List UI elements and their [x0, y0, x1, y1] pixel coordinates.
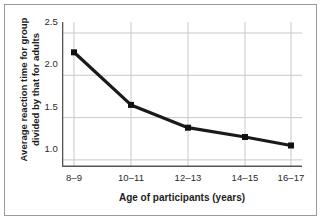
- x-tick-label: 10–11: [118, 172, 144, 183]
- y-tick-label: 2.0: [18, 58, 58, 69]
- x-tick-label: 12–13: [175, 172, 202, 183]
- data-point-marker: [128, 102, 134, 108]
- y-tick-label: 1.0: [18, 143, 58, 154]
- x-axis-title: Age of participants (years): [62, 192, 302, 203]
- line-chart-svg: [62, 22, 302, 167]
- plot-area: [62, 22, 302, 167]
- data-series-line: [74, 52, 291, 145]
- chart-figure: Average reaction time for group divided …: [0, 0, 322, 221]
- axis-spines: [62, 22, 302, 167]
- y-tick-label: 2.5: [18, 16, 58, 27]
- data-point-marker: [185, 125, 191, 131]
- data-point-markers: [71, 49, 294, 148]
- x-tick-label: 16–17: [278, 172, 305, 183]
- y-axis-tick-labels: 2.5 2.0 1.5 1.0: [14, 22, 58, 167]
- data-point-marker: [288, 143, 294, 149]
- x-axis-tick-labels: 8–9 10–11 12–13 14–15 16–17: [62, 172, 302, 186]
- x-tick-label: 8–9: [66, 172, 82, 183]
- x-tick-label: 14–15: [232, 172, 259, 183]
- y-tick-label: 1.5: [18, 101, 58, 112]
- data-point-marker: [71, 49, 77, 55]
- vertical-gridlines: [74, 22, 291, 167]
- data-point-marker: [242, 134, 248, 140]
